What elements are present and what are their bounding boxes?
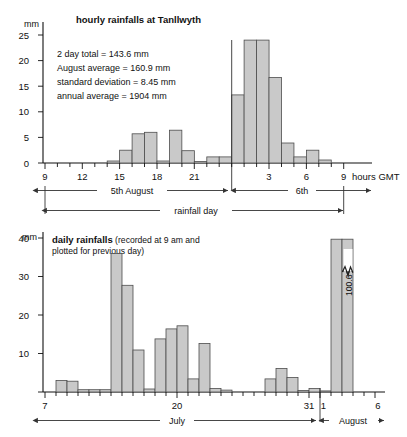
- top-x-unit-label: hours GMT: [352, 171, 400, 182]
- top-xtick-21: 21: [189, 171, 200, 182]
- svg-text:10: 10: [18, 348, 29, 359]
- svg-text:15: 15: [18, 81, 29, 92]
- svg-text:20: 20: [18, 55, 29, 66]
- band-5th-august: 5th August: [37, 184, 228, 197]
- top-xtick-15: 15: [114, 171, 125, 182]
- bottom-x-axis-ticks: 7 20 31: [42, 392, 380, 411]
- band-august: August: [323, 414, 384, 427]
- stat-annual-average: annual average = 1904 mm: [57, 91, 167, 101]
- rainfall-figure: mm hourly rainfalls at Tanllwyth 2 day t…: [0, 0, 407, 437]
- svg-text:20: 20: [18, 310, 29, 321]
- stat-standard-deviation: standard deviation = 8.45 mm: [57, 77, 176, 87]
- top-chart-title: hourly rainfalls at Tanllwyth: [76, 14, 201, 25]
- bottom-chart-title-bold: daily rainfalls: [52, 234, 113, 245]
- band-july: July: [37, 414, 316, 427]
- svg-text:30: 30: [18, 271, 29, 282]
- band-label-6th: 6th: [296, 186, 309, 196]
- top-xtick-9b: 9: [341, 171, 346, 182]
- stat-2day-total: 2 day total = 143.6 mm: [57, 49, 149, 59]
- bottom-xtick-20: 20: [172, 400, 183, 411]
- hourly-rainfall-panel: mm hourly rainfalls at Tanllwyth 2 day t…: [18, 14, 399, 217]
- svg-text:25: 25: [18, 30, 29, 41]
- bottom-chart-title-rest: (recorded at 9 am and: [113, 235, 200, 245]
- band-6th: 6th: [235, 184, 371, 197]
- top-xtick-18: 18: [152, 171, 163, 182]
- top-xtick-12: 12: [77, 171, 88, 182]
- top-xtick-6: 6: [304, 171, 309, 182]
- daily-rainfall-panel: mm daily rainfalls (recorded at 9 am and…: [18, 232, 385, 427]
- bottom-xtick-1: 1: [321, 400, 326, 411]
- bar-value-annotation-100-6: 100.6: [344, 274, 354, 296]
- bottom-xtick-6: 6: [375, 400, 380, 411]
- band-label-rainfall-day: rainfall day: [174, 206, 218, 216]
- bottom-chart-title: daily rainfalls (recorded at 9 am and: [52, 234, 200, 245]
- band-label-august: August: [339, 416, 368, 426]
- bottom-bars: [56, 239, 353, 392]
- bottom-xtick-7: 7: [42, 400, 47, 411]
- svg-text:40: 40: [18, 233, 29, 244]
- band-label-5th-august: 5th August: [111, 186, 154, 196]
- top-xtick-3: 3: [266, 171, 271, 182]
- top-xtick-9a: 9: [42, 171, 47, 182]
- svg-text:0: 0: [24, 158, 29, 169]
- stat-august-average: August average = 160.9 mm: [57, 63, 170, 73]
- bottom-chart-title-line2: plotted for previous day): [52, 246, 144, 256]
- top-y-axis-ticks: 0 5 10 15 20 25: [18, 30, 43, 169]
- svg-text:10: 10: [18, 106, 29, 117]
- svg-text:5: 5: [24, 132, 29, 143]
- top-x-axis-ticks: 9 12 15 18 21 3 6: [42, 163, 346, 182]
- bottom-xtick-31: 31: [304, 400, 315, 411]
- bottom-y-axis-ticks: 10 20 30 40: [18, 233, 43, 393]
- band-label-july: July: [169, 416, 186, 426]
- top-y-unit-label: mm: [24, 19, 39, 29]
